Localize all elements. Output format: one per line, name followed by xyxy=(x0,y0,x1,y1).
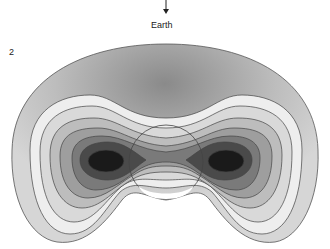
contour-core-left xyxy=(88,150,124,172)
arrow-down-icon xyxy=(163,0,169,14)
contour-core-right xyxy=(208,150,244,172)
contour-diagram xyxy=(0,0,330,249)
